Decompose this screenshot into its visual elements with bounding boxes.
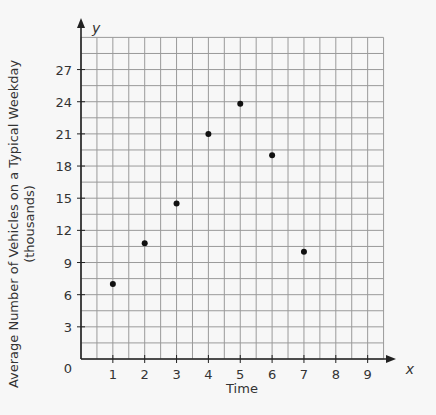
y-tick-label: 21 — [55, 127, 72, 142]
x-tick-label: 3 — [172, 367, 180, 382]
x-tick-label: 1 — [109, 367, 117, 382]
data-point — [174, 201, 180, 207]
y-tick-label: 6 — [64, 288, 72, 303]
chart-canvas: 123456789369121518212427 Time x y 0 Aver… — [0, 0, 436, 415]
y-axis-arrow-icon — [77, 18, 85, 28]
x-tick-label: 8 — [332, 367, 340, 382]
y-tick-label: 12 — [55, 223, 72, 238]
data-point — [301, 249, 307, 255]
y-tick-label: 18 — [55, 159, 72, 174]
x-tick-label: 6 — [268, 367, 276, 382]
origin-label: 0 — [64, 361, 72, 376]
data-point — [142, 240, 148, 246]
data-point — [205, 131, 211, 137]
x-tick-label: 9 — [364, 367, 372, 382]
x-tick-label: 7 — [300, 367, 308, 382]
x-axis-arrow-icon — [386, 355, 396, 363]
y-tick-label: 3 — [64, 320, 72, 335]
data-point — [237, 101, 243, 107]
y-tick-label: 9 — [64, 256, 72, 271]
scatter-chart: 123456789369121518212427 Time x y 0 Aver… — [0, 0, 436, 415]
data-point — [269, 152, 275, 158]
y-axis-subtitle: (thousands) — [22, 185, 37, 263]
y-tick-label: 27 — [55, 63, 72, 78]
tick-labels: 123456789369121518212427 — [55, 63, 371, 382]
data-point — [110, 281, 116, 287]
x-axis-title: Time — [225, 381, 258, 396]
grid — [81, 37, 384, 359]
x-tick-label: 5 — [236, 367, 244, 382]
x-axis-letter: x — [405, 361, 415, 377]
y-tick-label: 24 — [55, 95, 72, 110]
y-tick-label: 15 — [55, 191, 72, 206]
y-axis-letter: y — [91, 20, 101, 36]
x-tick-label: 2 — [141, 367, 149, 382]
y-axis-title: Average Number of Vehicles on a Typical … — [6, 60, 21, 389]
x-tick-label: 4 — [204, 367, 212, 382]
